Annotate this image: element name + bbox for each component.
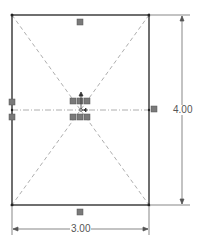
midpoint-relation-icon xyxy=(84,98,90,104)
midpoint-relation-icon xyxy=(70,114,76,120)
vertical-relation-icon xyxy=(151,106,157,112)
height-dimension-label[interactable]: 4.00 xyxy=(172,105,193,115)
vertical-relation-icon xyxy=(9,114,15,120)
horizontal-relation-icon xyxy=(77,209,83,215)
horizontal-relation-icon xyxy=(77,19,83,25)
midpoint-relation-icon xyxy=(77,98,83,104)
midpoint-relation-icon xyxy=(77,114,83,120)
midpoint-relation-icon xyxy=(70,98,76,104)
midpoint-relation-icon xyxy=(84,114,90,120)
width-dimension-label[interactable]: 3.00 xyxy=(70,224,91,234)
vertical-relation-icon xyxy=(9,99,15,105)
sketch-canvas[interactable] xyxy=(0,0,204,244)
